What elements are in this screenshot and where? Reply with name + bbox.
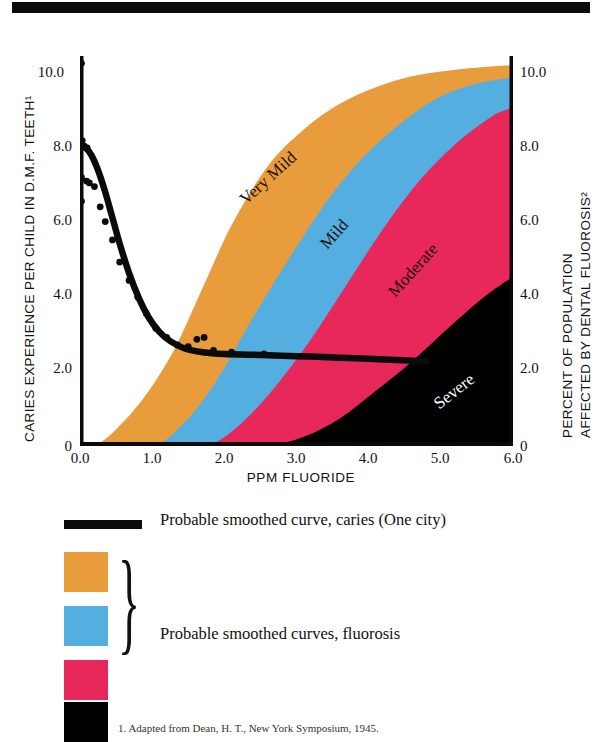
x-axis-tick-2: 2.0	[197, 450, 251, 467]
y-axis-right-title-line2: AFFECTED BY DENTAL FLUOROSIS²	[578, 192, 593, 438]
legend-swatch-very-mild	[64, 552, 108, 592]
x-axis-tick-4: 4.0	[341, 450, 395, 467]
legend-line-swatch	[64, 520, 142, 529]
x-axis-title: PPM FLUORIDE	[0, 470, 602, 485]
y-axis-left-title: CARIES EXPERIENCE PER CHILD IN D.M.F. TE…	[22, 95, 37, 442]
x-axis-tick-6: 6.0	[486, 450, 540, 467]
x-axis-tick-1: 1.0	[125, 450, 179, 467]
x-axis-tick-3: 3.0	[269, 450, 323, 467]
figure-caries-fluorosis: 0 2.0 4.0 6.0 8.0 10.0 0 2.0 4.0 6.0 8.0…	[0, 18, 602, 724]
top-rule-bar	[12, 2, 590, 13]
y-axis-right-tick-6: 6.0	[520, 212, 572, 229]
plot-area: 0 2.0 4.0 6.0 8.0 10.0 0 2.0 4.0 6.0 8.0…	[0, 18, 602, 478]
legend-line-label: Probable smoothed curve, caries (One cit…	[160, 510, 446, 530]
legend-swatch-group-label: Probable smoothed curves, fluorosis	[160, 624, 400, 644]
legend-swatch-moderate	[64, 660, 108, 700]
y-axis-left-tick-10: 10.0	[12, 64, 64, 81]
figure-footnote: 1. Adapted from Dean, H. T., New York Sy…	[118, 722, 538, 740]
legend-swatch-mild	[64, 606, 108, 646]
legend-brace: }	[118, 544, 140, 659]
y-axis-right-tick-10: 10.0	[520, 64, 572, 81]
chart-legend: Probable smoothed curve, caries (One cit…	[0, 496, 602, 696]
x-axis-tick-5: 5.0	[413, 450, 467, 467]
legend-swatch-severe	[64, 702, 108, 742]
y-axis-right-tick-8: 8.0	[520, 138, 572, 155]
y-axis-right-title-line1: PERCENT OF POPULATION	[560, 253, 575, 438]
x-axis-tick-0: 0.0	[53, 450, 107, 467]
